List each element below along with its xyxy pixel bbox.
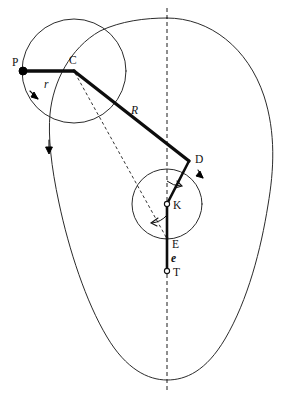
- point-label-e: E: [172, 238, 179, 250]
- link-arm-k-d: [167, 161, 189, 204]
- joint-p-marker: [19, 67, 27, 75]
- point-label-p: P: [12, 56, 18, 68]
- diagram-root: P C D K E T r R e: [0, 0, 288, 400]
- link-coupler-r-big: [74, 71, 189, 161]
- point-label-d: D: [195, 153, 203, 165]
- length-label-e-offset: e: [171, 252, 176, 264]
- joint-t-marker: [164, 268, 169, 273]
- point-label-t: T: [173, 266, 180, 278]
- joint-k-marker: [164, 201, 169, 206]
- construction-line-c-e: [75, 73, 166, 237]
- path-direction-arrowhead: [46, 147, 53, 154]
- point-label-c: C: [69, 54, 77, 66]
- linkage-diagram-svg: P C D K E T r R e: [0, 0, 288, 400]
- length-label-r-small: r: [44, 78, 49, 90]
- rocker-rotation-arrowhead: [196, 171, 203, 178]
- length-label-r-big: R: [130, 104, 138, 116]
- point-label-k: K: [173, 199, 182, 211]
- coupler-curve-path: [49, 18, 272, 380]
